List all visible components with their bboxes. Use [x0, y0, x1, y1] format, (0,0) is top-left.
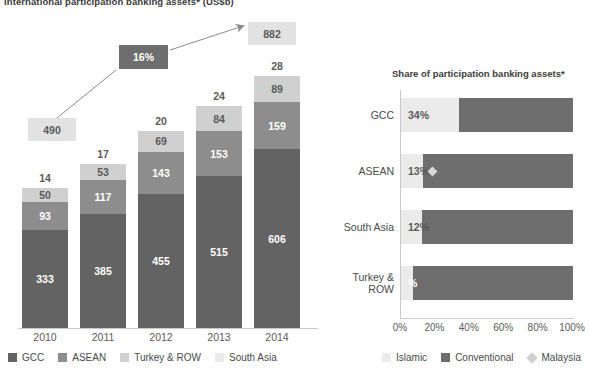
bar-segment-asean-2010: 93	[22, 202, 68, 229]
legend-label: Islamic	[396, 352, 427, 363]
legend-item-gcc: GCC	[8, 352, 44, 363]
legend-diamond-icon	[526, 352, 537, 363]
right-x-axis-label-20pct: 20%	[424, 322, 444, 333]
legend-swatch-icon	[120, 353, 129, 362]
left-x-axis-line	[18, 328, 318, 329]
share-row-label: GCC	[330, 92, 394, 138]
share-row-south-asia: South Asia12%	[330, 204, 582, 250]
share-row-asean: ASEAN13%	[330, 148, 582, 194]
x-axis-label-2011: 2011	[80, 331, 126, 343]
x-axis-label-2012: 2012	[138, 331, 184, 343]
legend-swatch-icon	[382, 353, 391, 362]
legend-swatch-icon	[441, 353, 450, 362]
right-x-axis-label-60pct: 60%	[493, 322, 513, 333]
bar-segment-gcc-2014: 606	[254, 149, 300, 328]
bar-segment-turkey-row-2010: 50	[22, 188, 68, 203]
right-x-axis-label-0pct: 0%	[393, 322, 407, 333]
share-value-label: %	[401, 266, 417, 300]
legend-swatch-icon	[8, 353, 17, 362]
start-total-callout: 490	[28, 118, 76, 141]
legend-label: GCC	[22, 352, 44, 363]
bar-column-2013: 84153515	[196, 106, 242, 328]
right-x-axis-line	[400, 318, 574, 319]
right-chart-title: Share of participation banking assets*	[392, 68, 565, 79]
share-row-label: ASEAN	[330, 148, 394, 194]
share-value-label: 34%	[401, 98, 429, 132]
bar-segment-asean-2012: 143	[138, 152, 184, 194]
legend-swatch-icon	[58, 353, 67, 362]
share-row-gcc: GCC34%	[330, 92, 582, 138]
bar-segment-turkey-row-2013: 84	[196, 106, 242, 131]
horizontal-bar-plot-area: GCC34%ASEAN13%South Asia12%Turkey &ROW%0…	[330, 90, 582, 320]
cagr-callout: 16%	[119, 45, 168, 69]
bar-segment-gcc-2012: 455	[138, 194, 184, 328]
bar-column-2010: 5093333	[22, 188, 68, 328]
right-chart-legend: IslamicConventionalMalaysia	[382, 352, 590, 363]
legend-item-turkey-row: Turkey & ROW	[120, 352, 201, 363]
share-bar-islamic: %	[401, 266, 573, 300]
share-value-label: 13%	[401, 154, 429, 188]
bar-top-label-south-asia-2012: 20	[138, 115, 184, 127]
legend-swatch-icon	[215, 353, 224, 362]
share-row-label: South Asia	[330, 204, 394, 250]
x-axis-label-2013: 2013	[196, 331, 242, 343]
right-x-axis-label-40pct: 40%	[459, 322, 479, 333]
share-row-turkey-row: Turkey &ROW%	[330, 260, 582, 306]
bar-segment-gcc-2013: 515	[196, 176, 242, 328]
legend-item-malaysia: Malaysia	[528, 352, 581, 363]
legend-item-south-asia: South Asia	[215, 352, 277, 363]
legend-item-islamic: Islamic	[382, 352, 427, 363]
bar-top-label-south-asia-2013: 24	[196, 90, 242, 102]
legend-label: Turkey & ROW	[134, 352, 201, 363]
bar-top-label-south-asia-2011: 17	[80, 148, 126, 160]
legend-label: Conventional	[455, 352, 513, 363]
legend-label: Malaysia	[542, 352, 581, 363]
share-bar-conventional	[422, 210, 573, 244]
left-chart-legend: GCCASEANTurkey & ROWSouth Asia	[8, 352, 291, 363]
x-axis-label-2014: 2014	[254, 331, 300, 343]
bar-column-2012: 69143455	[138, 131, 184, 328]
participation-assets-bar-chart: International participation banking asse…	[0, 0, 330, 384]
legend-label: South Asia	[229, 352, 277, 363]
share-bar-conventional	[413, 266, 573, 300]
legend-item-conventional: Conventional	[441, 352, 513, 363]
x-axis-label-2010: 2010	[22, 331, 68, 343]
bar-segment-turkey-row-2012: 69	[138, 131, 184, 151]
right-x-axis-label-80pct: 80%	[528, 322, 548, 333]
bar-column-2011: 53117385	[80, 164, 126, 328]
bar-column-2014: 89159606	[254, 76, 300, 328]
bar-segment-gcc-2010: 333	[22, 230, 68, 328]
share-bar-islamic: 13%	[401, 154, 573, 188]
bar-top-label-south-asia-2014: 28	[254, 60, 300, 72]
share-bar-conventional	[423, 154, 573, 188]
bar-segment-gcc-2011: 385	[80, 214, 126, 328]
right-x-axis-label-100pct: 100%	[559, 322, 585, 333]
share-bar-conventional	[459, 98, 573, 132]
bar-segment-asean-2011: 117	[80, 180, 126, 215]
end-total-callout: 882	[248, 22, 296, 45]
bar-segment-turkey-row-2011: 53	[80, 164, 126, 180]
share-row-label: Turkey &ROW	[330, 260, 394, 306]
share-bar-islamic: 34%	[401, 98, 573, 132]
legend-label: ASEAN	[72, 352, 106, 363]
share-value-label: 12%	[401, 210, 429, 244]
participation-share-bar-chart: Share of participation banking assets* G…	[330, 0, 582, 384]
bar-segment-asean-2014: 159	[254, 102, 300, 149]
share-bar-islamic: 12%	[401, 210, 573, 244]
legend-item-asean: ASEAN	[58, 352, 106, 363]
left-chart-title: International participation banking asse…	[4, 0, 234, 7]
bar-segment-asean-2013: 153	[196, 131, 242, 176]
bar-top-label-south-asia-2010: 14	[22, 172, 68, 184]
bar-segment-turkey-row-2014: 89	[254, 76, 300, 102]
